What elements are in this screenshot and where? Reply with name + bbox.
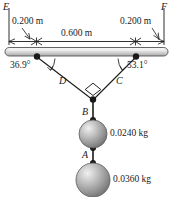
right-angle-square [85, 83, 101, 95]
bar-left-end-label: E [3, 2, 9, 12]
bar-right-end-label: F [161, 2, 167, 12]
angle-right-label: 53.1° [127, 61, 147, 71]
upper-sphere [79, 120, 107, 148]
dimension-line-group [9, 38, 164, 46]
leader-right-offset [152, 28, 159, 39]
cord-C-label: C [116, 76, 123, 86]
cord-B-label: B [82, 107, 88, 117]
dimension-middle-span-label: 0.600 m [61, 29, 92, 39]
angle-arc-right [118, 59, 123, 71]
dimension-left-offset-label: 0.200 m [12, 17, 43, 27]
horizontal-bar [5, 48, 168, 57]
bar-body [5, 48, 168, 57]
node-left-attachment [34, 53, 40, 59]
physics-diagram: E F 0.200 m 0.600 m 0.200 m 36.9° 53.1° … [0, 0, 173, 197]
cord-D-label: D [59, 76, 66, 86]
angle-arc-right-arrow [120, 67, 126, 71]
upper-sphere-mass-label: 0.0240 kg [110, 129, 148, 139]
right-angle-square-outline [85, 83, 101, 95]
angle-arc-group [48, 59, 126, 71]
node-junction [90, 96, 96, 102]
lower-sphere [76, 163, 110, 197]
end-reference-lines [9, 8, 164, 45]
leader-left-offset [22, 28, 30, 39]
node-right-attachment [133, 53, 139, 59]
angle-left-label: 36.9° [10, 61, 30, 71]
dimension-right-offset-label: 0.200 m [120, 17, 151, 27]
cord-A-label: A [82, 150, 88, 160]
lower-sphere-mass-label: 0.0360 kg [113, 175, 151, 185]
